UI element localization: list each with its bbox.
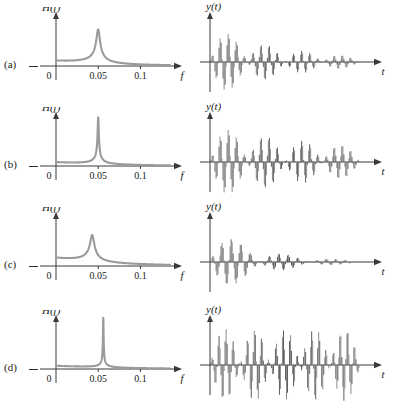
stem-plot xyxy=(211,130,359,192)
y-axis-vertical xyxy=(207,315,213,395)
y-axis-vertical xyxy=(207,212,213,292)
time-response-panel-b: y(t)t xyxy=(196,100,397,200)
time-response-panel-c: y(t)t xyxy=(196,200,397,300)
y-axis-label: y(t) xyxy=(205,200,222,213)
h-axis-vertical xyxy=(53,112,59,180)
row-label-b: (b) xyxy=(4,158,17,170)
row-label-a: (a) xyxy=(4,58,16,70)
frequency-response-panel-c: H(f)f00.050.1 xyxy=(34,200,194,300)
t-axis-label: t xyxy=(381,265,385,277)
f-axis-tick-label: 0.05 xyxy=(89,70,107,81)
y-axis-vertical xyxy=(207,112,213,192)
time-response-panel-a: y(t)t xyxy=(196,0,397,100)
y-axis-label: y(t) xyxy=(205,0,222,13)
t-axis-label: t xyxy=(381,165,385,177)
row-label-d: (d) xyxy=(4,361,17,373)
figure-row-a: (a)H(f)f00.050.1y(t)t xyxy=(0,0,397,100)
f-axis-tick-label: 0.1 xyxy=(134,70,147,81)
y-axis-label: y(t) xyxy=(205,100,222,113)
f-axis-tick-label: 0 xyxy=(47,270,52,281)
f-axis-tick-label: 0 xyxy=(47,373,52,384)
time-response-panel-d: y(t)t xyxy=(196,303,397,403)
f-axis-tick-label: 0.1 xyxy=(134,270,147,281)
f-axis-tick-label: 0.1 xyxy=(134,373,147,384)
peak-clip-mask xyxy=(34,303,194,310)
frequency-response-panel-a: H(f)f00.050.1 xyxy=(34,0,194,100)
peak-clip-mask xyxy=(34,100,194,107)
resonance-curve xyxy=(56,318,170,369)
peak-clip-mask xyxy=(34,0,194,7)
h-axis-vertical xyxy=(53,212,59,280)
f-axis-tick-label: 0 xyxy=(47,70,52,81)
frequency-response-panel-b: H(f)f00.050.1 xyxy=(34,100,194,200)
peak-clip-mask xyxy=(34,200,194,207)
f-axis-label: f xyxy=(180,69,185,81)
figure-row-b: (b)H(f)f00.050.1y(t)t xyxy=(0,100,397,200)
h-axis-vertical xyxy=(53,315,59,383)
figure-row-d: (d)H(f)f00.050.1y(t)t xyxy=(0,303,397,403)
f-axis-label: f xyxy=(180,372,185,384)
stem-plot xyxy=(211,239,355,283)
figure-row-c: (c)H(f)f00.050.1y(t)t xyxy=(0,200,397,300)
f-axis-tick-label: 0.05 xyxy=(89,270,107,281)
h-axis-vertical xyxy=(53,12,59,80)
f-axis-tick-label: 0 xyxy=(47,170,52,181)
f-axis-label: f xyxy=(180,169,185,181)
y-axis-label: y(t) xyxy=(205,303,222,316)
resonance-curve xyxy=(56,235,170,265)
stem-plot xyxy=(211,329,359,400)
f-axis-tick-label: 0.05 xyxy=(89,373,107,384)
t-axis-label: t xyxy=(381,65,385,77)
f-axis-tick-label: 0.05 xyxy=(89,170,107,181)
resonance-curve xyxy=(56,29,170,65)
y-axis-vertical xyxy=(207,12,213,92)
f-axis-label: f xyxy=(180,269,185,281)
resonance-curve xyxy=(56,117,170,165)
t-axis-label: t xyxy=(381,368,385,380)
f-axis-tick-label: 0.1 xyxy=(134,170,147,181)
row-label-c: (c) xyxy=(4,258,16,270)
frequency-response-panel-d: H(f)f00.050.1 xyxy=(34,303,194,403)
figure-container: (a)H(f)f00.050.1y(t)t(b)H(f)f00.050.1y(t… xyxy=(0,0,397,411)
